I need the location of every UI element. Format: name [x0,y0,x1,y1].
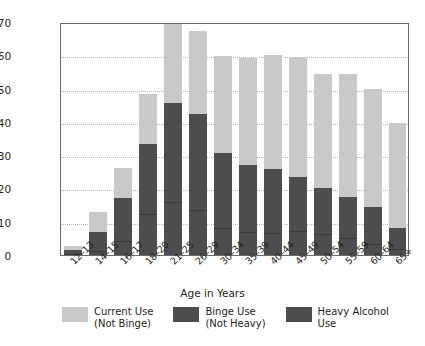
legend-label: Binge Use(Not Heavy) [205,306,265,329]
y-tick-label: 40 [0,118,11,129]
bar-segment[interactable] [164,24,182,102]
bar-segment[interactable] [189,114,207,211]
y-tick-label: 0 [0,251,11,262]
bar-group[interactable] [314,74,332,255]
bar-group[interactable] [339,74,357,255]
legend-swatch [62,307,88,322]
bar-segment[interactable] [364,89,382,208]
bar-group[interactable] [389,123,407,255]
bar-segment[interactable] [189,31,207,114]
bar-group[interactable] [214,56,232,255]
bar-segment[interactable] [264,55,282,169]
legend-item[interactable]: Current Use(Not Binge) [62,306,153,329]
bar-group[interactable] [289,57,307,255]
y-tick-label: 60 [0,51,11,62]
bar-segment[interactable] [164,103,182,202]
y-tick-label: 20 [0,184,11,195]
bar-group[interactable] [164,24,182,255]
y-tick-label: 30 [0,151,11,162]
y-tick-label: 50 [0,85,11,96]
legend-item[interactable]: Heavy AlcoholUse [286,306,389,329]
bars-layer [61,24,408,255]
legend-label: Current Use(Not Binge) [94,306,153,329]
y-tick-label: 70 [0,18,11,29]
stacked-bar-chart: Percent Using in Past Month 010203040506… [0,0,425,346]
bar-segment[interactable] [339,74,357,197]
legend-swatch [173,307,199,322]
bar-segment[interactable] [364,207,382,243]
bar-group[interactable] [139,94,157,255]
bar-segment[interactable] [214,56,232,154]
bar-segment[interactable] [389,123,407,228]
legend-swatch [286,307,312,322]
bar-segment[interactable] [214,153,232,228]
y-tick-label: 10 [0,218,11,229]
bar-group[interactable] [189,31,207,255]
bar-segment[interactable] [114,198,132,240]
plot-area [60,23,409,256]
x-axis-title: Age in Years [0,287,425,299]
bar-segment[interactable] [139,144,157,215]
bar-segment[interactable] [139,94,157,144]
legend-item[interactable]: Binge Use(Not Heavy) [173,306,265,329]
bar-group[interactable] [239,58,257,255]
bar-segment[interactable] [89,212,107,232]
bar-segment[interactable] [239,165,257,232]
bar-segment[interactable] [264,169,282,233]
bar-group[interactable] [364,89,382,255]
bar-segment[interactable] [314,188,332,234]
bar-group[interactable] [264,55,282,255]
bar-segment[interactable] [289,177,307,231]
legend-label: Heavy AlcoholUse [318,306,389,329]
bar-segment[interactable] [114,168,132,198]
bar-segment[interactable] [339,197,357,239]
bar-group[interactable] [114,168,132,255]
bar-segment[interactable] [289,57,307,177]
bar-segment[interactable] [239,58,257,165]
bar-segment[interactable] [314,74,332,189]
chart-legend: Current Use(Not Binge)Binge Use(Not Heav… [62,306,392,329]
